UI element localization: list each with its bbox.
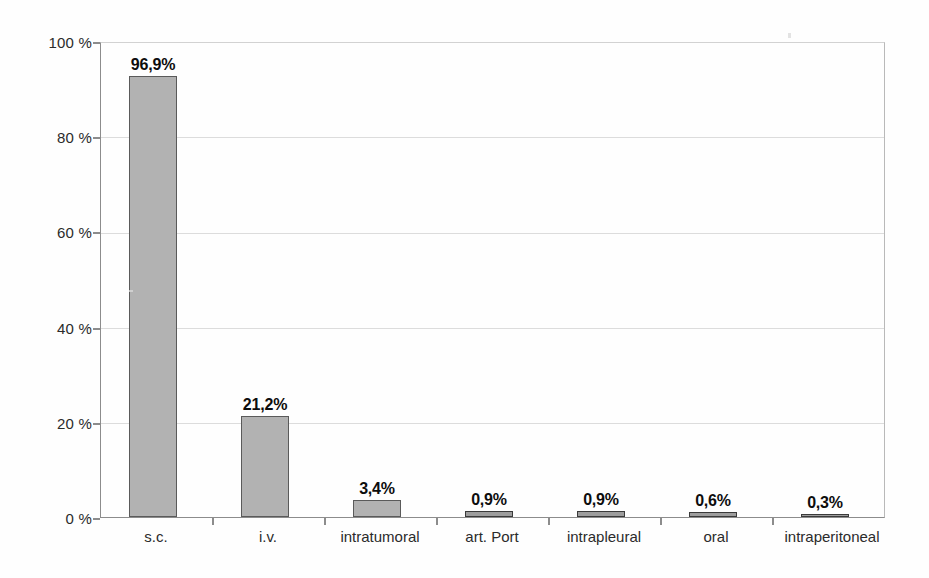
bar-iv[interactable] [241, 416, 289, 517]
bar-value-label-sc: 96,9% [131, 56, 175, 74]
bar-sc[interactable] [129, 76, 177, 517]
y-tick-mark-20 [93, 423, 100, 425]
x-cat-label-iv: i.v. [212, 528, 324, 545]
bar-slot-intraperitoneal: 0,3% [801, 43, 849, 517]
scan-speckle [788, 33, 791, 38]
bar-slot-iv: 21,2% [241, 43, 289, 517]
x-cat-label-intrapleural: intrapleural [548, 528, 660, 545]
plot-area: 96,9% 21,2% 3,4% 0,9% 0,9% 0,6% [100, 42, 885, 518]
bar-value-label-iv: 21,2% [243, 396, 287, 414]
y-tick-label-80: 80 % [0, 129, 92, 146]
y-tick-label-0: 0 % [0, 510, 92, 527]
bar-value-label-intratumoral: 3,4% [359, 480, 395, 498]
bar-art-port[interactable] [465, 511, 513, 517]
x-tick-mark-1 [212, 518, 214, 525]
x-cat-label-sc: s.c. [100, 528, 212, 545]
bar-chart: 100 % 80 % 60 % 40 % 20 % 0 % 96,9% 21,2… [0, 0, 929, 578]
x-tick-mark-2 [324, 518, 326, 525]
scan-speckle [129, 290, 133, 292]
bar-slot-art-port: 0,9% [465, 43, 513, 517]
x-tick-mark-3 [436, 518, 438, 525]
bar-slot-oral: 0,6% [689, 43, 737, 517]
x-cat-label-oral: oral [660, 528, 772, 545]
y-axis: 100 % 80 % 60 % 40 % 20 % 0 % [0, 0, 92, 578]
x-tick-mark-5 [660, 518, 662, 525]
y-tick-mark-80 [93, 137, 100, 139]
bar-value-label-art-port: 0,9% [471, 491, 507, 509]
x-cat-label-art-port: art. Port [436, 528, 548, 545]
bar-slot-intrapleural: 0,9% [577, 43, 625, 517]
bar-intratumoral[interactable] [353, 500, 401, 517]
y-tick-label-60: 60 % [0, 224, 92, 241]
y-tick-mark-100 [93, 42, 100, 44]
bar-value-label-intrapleural: 0,9% [583, 491, 619, 509]
bar-oral[interactable] [689, 512, 737, 517]
x-tick-mark-6 [772, 518, 774, 525]
bar-value-label-intraperitoneal: 0,3% [807, 494, 843, 512]
bar-slot-sc: 96,9% [129, 43, 177, 517]
y-tick-label-20: 20 % [0, 415, 92, 432]
bar-value-label-oral: 0,6% [695, 492, 731, 510]
bar-slot-intratumoral: 3,4% [353, 43, 401, 517]
y-tick-label-40: 40 % [0, 320, 92, 337]
x-tick-mark-4 [548, 518, 550, 525]
y-tick-label-100: 100 % [0, 34, 92, 51]
bar-intrapleural[interactable] [577, 511, 625, 517]
x-cat-label-intratumoral: intratumoral [324, 528, 436, 545]
x-cat-label-intraperitoneal: intraperitoneal [772, 528, 892, 545]
y-tick-mark-60 [93, 232, 100, 234]
y-tick-mark-0 [93, 518, 100, 520]
y-tick-mark-40 [93, 328, 100, 330]
bar-intraperitoneal[interactable] [801, 514, 849, 517]
